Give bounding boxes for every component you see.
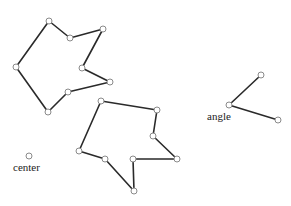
polygon-2[interactable]	[76, 98, 180, 194]
polygon-1-edges	[16, 21, 110, 112]
angle-edges	[229, 75, 278, 120]
polygon-2-vertex-handle[interactable]	[98, 98, 104, 104]
center-point-handle[interactable]	[26, 153, 32, 159]
center-point[interactable]	[26, 153, 32, 159]
polygon-2-vertex-handle[interactable]	[154, 107, 160, 113]
polygon-1-vertex-handle[interactable]	[45, 109, 51, 115]
angle-shape[interactable]	[226, 72, 281, 123]
polygon-2-vertex-handle[interactable]	[130, 156, 136, 162]
polygon-2-vertex-handle[interactable]	[131, 188, 137, 194]
center-label: center	[13, 162, 40, 173]
polygon-1-vertex-handle[interactable]	[100, 26, 106, 32]
polygon-2-vertex-handle[interactable]	[76, 148, 82, 154]
polygon-1-vertex-handle[interactable]	[67, 35, 73, 41]
polygon-1-vertex-handle[interactable]	[46, 18, 52, 24]
polygon-2-vertex-handle[interactable]	[174, 156, 180, 162]
polygon-2-vertex-handle[interactable]	[102, 156, 108, 162]
angle-label: angle	[207, 111, 231, 122]
angle-vertex-handle[interactable]	[275, 117, 281, 123]
polygon-2-vertex-handle[interactable]	[150, 133, 156, 139]
polygon-1-vertex-handle[interactable]	[79, 65, 85, 71]
polygon-2-edges	[79, 101, 177, 191]
angle-vertex-handle[interactable]	[258, 72, 264, 78]
polygon-1-vertex-handle[interactable]	[65, 89, 71, 95]
polygon-1-vertex-handle[interactable]	[13, 64, 19, 70]
geometry-canvas	[0, 0, 291, 206]
angle-vertex-handle[interactable]	[226, 102, 232, 108]
polygon-1-vertex-handle[interactable]	[107, 79, 113, 85]
